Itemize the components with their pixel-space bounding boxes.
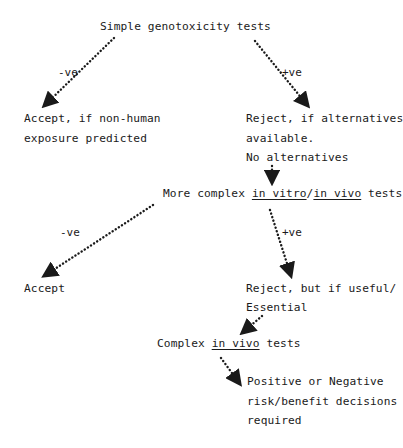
arrow-morecomplex-to-reject [270,210,291,276]
more-complex-prefix: More complex [163,187,252,200]
node-complex-in-vivo-tests: Complex in vivo tests [157,337,301,350]
edge-label-positive: +ve [282,66,302,79]
node-decisions-line2: risk/benefit decisions [247,395,397,408]
arrow-essential-to-complexinvivo [242,316,262,333]
arrow-complexinvivo-to-decisions [221,358,240,384]
more-complex-suffix: tests [361,187,402,200]
node-reject-useful-line1: Reject, but if useful/ [246,282,396,295]
node-accept-nonhuman-line2: exposure predicted [24,132,147,145]
edge-label-negative: -ve [58,66,78,79]
edge-label-positive-2: +ve [282,226,302,239]
node-accept-nonhuman-line1: Accept, if non-human [24,112,161,125]
in-vitro-term: in vitro [252,187,307,200]
node-reject-useful-line2: Essential [246,301,308,314]
arrow-morecomplex-to-accept [44,205,153,276]
node-simple-genotoxicity-tests: Simple genotoxicity tests [100,20,271,33]
edge-label-negative-2: -ve [60,226,80,239]
complex-suffix: tests [260,337,301,350]
in-vivo-term-2: in vivo [212,337,260,350]
in-vivo-term: in vivo [313,187,361,200]
node-decisions-line1: Positive or Negative [247,375,384,388]
node-decisions-line3: required [247,414,302,427]
complex-prefix: Complex [157,337,212,350]
node-reject-alternatives-line1: Reject, if alternatives [246,112,403,125]
node-accept: Accept [24,282,65,295]
node-no-alternatives: No alternatives [246,151,349,164]
node-more-complex-tests: More complex in vitro/in vivo tests [163,187,402,200]
arrow-start-to-accept [44,38,114,106]
node-reject-alternatives-line2: available. [246,132,314,145]
